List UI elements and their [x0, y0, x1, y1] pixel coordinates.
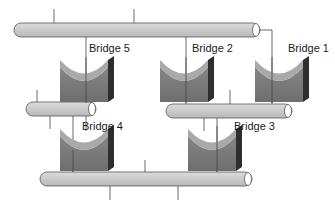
bridge-3-label: Bridge 3: [234, 120, 275, 132]
bridge-4-label: Bridge 4: [82, 120, 123, 132]
bridge-1-label: Bridge 1: [288, 42, 329, 54]
bridged-network-diagram: [0, 0, 335, 206]
bridge-2-icon: [160, 56, 214, 102]
bridge-5-icon: [60, 56, 114, 102]
segment-bottom: [40, 172, 252, 186]
bridge-1-icon: [255, 56, 309, 102]
segment-top: [14, 23, 260, 37]
segment-middle-left: [26, 102, 96, 116]
segment-middle-right: [166, 104, 292, 118]
bridge-2-label: Bridge 2: [192, 42, 233, 54]
bridge-5-label: Bridge 5: [89, 42, 130, 54]
